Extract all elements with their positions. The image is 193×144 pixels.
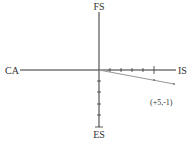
vector-point — [153, 79, 155, 81]
vector-label: (+5,-1) — [150, 98, 173, 107]
origin-point — [108, 69, 110, 71]
label-is: IS — [178, 65, 187, 76]
label-es: ES — [93, 129, 105, 140]
label-fs: FS — [93, 1, 104, 12]
vector-endpoint — [173, 83, 175, 85]
label-ca: CA — [5, 65, 20, 76]
vector-line — [99, 70, 174, 84]
quadrant-diagram: FS ES CA IS (+5,-1) — [0, 0, 193, 144]
